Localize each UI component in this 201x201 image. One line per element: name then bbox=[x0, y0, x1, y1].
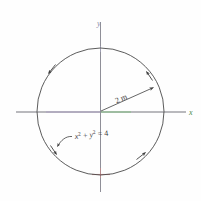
radius-label-group: 2 m bbox=[114, 92, 130, 106]
arrow-upper-left-icon bbox=[49, 65, 56, 74]
arrow-upper-right-icon bbox=[147, 72, 153, 81]
equation-label-group: x2 + y2 = 4 bbox=[73, 128, 108, 142]
arrow-lower-right-icon bbox=[137, 153, 146, 160]
figure-root: y x 2 m x2 + y2 = 4 bbox=[0, 0, 201, 201]
radius-label: 2 m bbox=[114, 92, 130, 106]
y-axis-label: y bbox=[96, 19, 101, 28]
equation-label: x2 + y2 = 4 bbox=[73, 128, 108, 142]
arrow-lower-left-icon bbox=[51, 146, 57, 155]
circle-diagram-svg: y x 2 m x2 + y2 = 4 bbox=[0, 0, 201, 201]
equation-rhs: = 4 bbox=[95, 129, 108, 139]
x-axis-label: x bbox=[188, 108, 193, 117]
equation-leader-line bbox=[58, 136, 73, 146]
